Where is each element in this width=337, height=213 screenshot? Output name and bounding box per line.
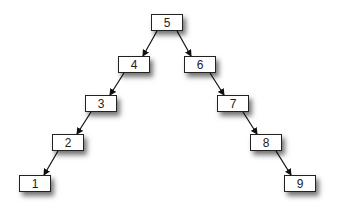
node-label: 5 xyxy=(164,16,171,30)
node-6: 6 xyxy=(184,56,216,73)
tree-diagram: 5 4 6 3 7 2 8 1 9 xyxy=(0,0,337,213)
edge-8-9 xyxy=(276,151,291,175)
edge-5-6 xyxy=(177,31,191,56)
node-label: 2 xyxy=(65,136,72,150)
node-label: 7 xyxy=(230,97,237,111)
node-label: 3 xyxy=(98,97,105,111)
edge-5-4 xyxy=(143,31,157,56)
node-9: 9 xyxy=(284,175,316,192)
node-label: 1 xyxy=(32,177,39,191)
node-7: 7 xyxy=(217,95,249,112)
node-1: 1 xyxy=(19,175,51,192)
edge-2-1 xyxy=(44,151,58,175)
edge-6-7 xyxy=(210,73,224,95)
node-label: 8 xyxy=(263,136,270,150)
node-label: 6 xyxy=(197,58,204,72)
node-label: 9 xyxy=(297,177,304,191)
node-3: 3 xyxy=(85,95,117,112)
edge-4-3 xyxy=(110,73,124,95)
node-label: 4 xyxy=(131,58,138,72)
node-8: 8 xyxy=(250,134,282,151)
edge-3-2 xyxy=(77,112,91,134)
node-2: 2 xyxy=(52,134,84,151)
edge-7-8 xyxy=(243,112,257,134)
node-5: 5 xyxy=(151,14,183,31)
node-4: 4 xyxy=(118,56,150,73)
